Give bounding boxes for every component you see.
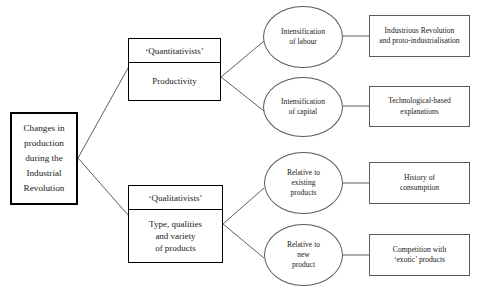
qualitativists-body-line-2: and variety xyxy=(155,230,195,242)
relative-to-new-product-line-2: new xyxy=(297,250,310,260)
node-industrious-revolution: Industrious Revolution and proto-industr… xyxy=(369,15,470,57)
industrious-revolution-line-2: and proto-industrialisation xyxy=(379,36,459,46)
industrious-revolution-line-1: Industrious Revolution xyxy=(385,26,455,36)
edge-qualitativists-to-existing xyxy=(223,188,264,224)
technological-based-explanations-line-1: Technological-based xyxy=(388,96,451,106)
node-intensification-of-labour: Intensification of labour xyxy=(263,6,343,68)
qualitativists-header: ‘Qualitativists’ xyxy=(129,186,222,210)
relative-to-existing-products-line-2: existing xyxy=(291,178,315,188)
edge-quantitativists-to-labour xyxy=(221,41,264,77)
node-history-of-consumption: History of consumption xyxy=(369,162,470,204)
node-qualitativists: ‘Qualitativists’ Type, qualities and var… xyxy=(128,185,223,263)
root-line-5: Revolution xyxy=(24,181,65,196)
intensification-of-labour-line-2: of labour xyxy=(289,37,317,47)
qualitativists-body-line-3: of products xyxy=(155,242,196,254)
competition-with-exotic-products-line-1: Competition with xyxy=(393,245,446,255)
root-line-2: production xyxy=(24,136,64,151)
qualitativists-body-line-1: Type, qualities xyxy=(149,218,202,230)
relative-to-existing-products-line-1: Relative to xyxy=(287,168,320,178)
node-quantitativists: ‘Quantitativists’ Productivity xyxy=(128,38,221,101)
node-changes-in-production: Changes in production during the Industr… xyxy=(10,112,78,205)
quantitativists-body-line-1: Productivity xyxy=(152,75,197,87)
edge-quantitativists-to-capital xyxy=(221,77,264,111)
competition-with-exotic-products-line-2: ‘exotic’ products xyxy=(394,255,445,265)
edge-root-to-qualitativists xyxy=(78,158,128,215)
quantitativists-header-label: ‘Quantitativists’ xyxy=(145,46,204,56)
relative-to-existing-products-line-3: products xyxy=(290,188,316,198)
diagram-canvas: Changes in production during the Industr… xyxy=(0,0,479,292)
quantitativists-body: Productivity xyxy=(129,63,220,100)
history-of-consumption-line-2: consumption xyxy=(400,183,439,193)
edge-qualitativists-to-new xyxy=(223,224,264,258)
node-technological-based-explanations: Technological-based explanations xyxy=(369,86,470,127)
intensification-of-capital-line-1: Intensification xyxy=(281,97,325,107)
root-line-4: Industrial xyxy=(26,166,61,181)
intensification-of-labour-line-1: Intensification xyxy=(281,27,325,37)
intensification-of-capital-line-2: of capital xyxy=(289,107,317,117)
node-relative-to-existing-products: Relative to existing products xyxy=(264,152,343,214)
root-line-1: Changes in xyxy=(23,121,64,136)
node-intensification-of-capital: Intensification of capital xyxy=(263,77,343,137)
quantitativists-header: ‘Quantitativists’ xyxy=(129,39,220,63)
root-line-3: during the xyxy=(25,151,63,166)
history-of-consumption-line-1: History of xyxy=(404,173,435,183)
edge-root-to-quantitativists xyxy=(78,68,128,158)
node-relative-to-new-product: Relative to new product xyxy=(264,224,343,286)
relative-to-new-product-line-1: Relative to xyxy=(287,240,320,250)
node-competition-with-exotic-products: Competition with ‘exotic’ products xyxy=(369,234,470,276)
relative-to-new-product-line-3: product xyxy=(292,260,315,270)
qualitativists-body: Type, qualities and variety of products xyxy=(129,210,222,262)
technological-based-explanations-line-2: explanations xyxy=(400,107,438,117)
qualitativists-header-label: ‘Qualitativists’ xyxy=(149,193,203,203)
